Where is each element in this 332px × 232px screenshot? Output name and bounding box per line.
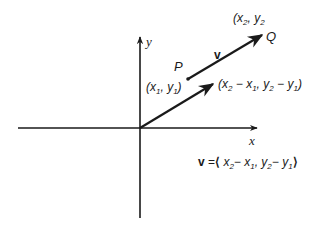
y-axis-label: y — [146, 35, 152, 48]
vector-equation: v =⟨ x2− x1, y2− y1⟩ — [198, 156, 298, 168]
point-p — [186, 77, 190, 81]
point-p-label: P — [174, 60, 183, 73]
point-q-coords: (x2, y2 — [233, 12, 265, 24]
vector-diagram: y x (x2, y2 Q v P (x1, y1) (x2 − x1, y2 … — [0, 0, 332, 232]
point-q-label: Q — [266, 30, 276, 43]
vector-v-label: v — [214, 49, 221, 61]
x-axis-label: x — [249, 134, 255, 147]
vector-pq — [188, 35, 262, 79]
position-vector-tip-label: (x2 − x1, y2 − y1) — [218, 78, 302, 90]
diagram-canvas — [0, 0, 332, 232]
point-p-coords: (x1, y1) — [146, 81, 182, 93]
